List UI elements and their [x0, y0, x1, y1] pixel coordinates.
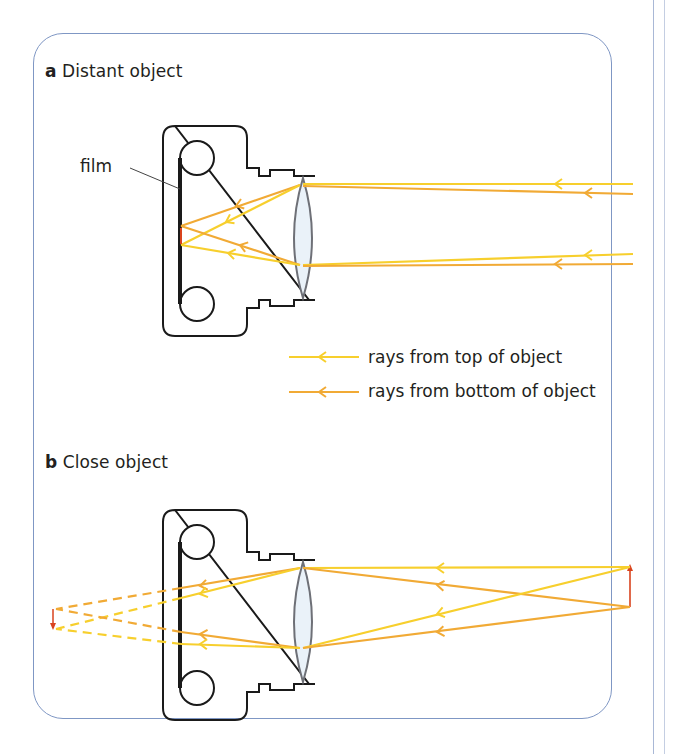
optics-diagram-svg — [0, 0, 673, 754]
diagram-stage: a Distant object film rays from top of o… — [0, 0, 673, 754]
panel-b-camera — [163, 510, 315, 720]
legend — [289, 352, 359, 397]
panel-b-rays — [50, 563, 633, 649]
film-pointer-line — [130, 168, 180, 189]
panel-a-rays — [181, 179, 633, 269]
panel-a-camera — [163, 126, 315, 336]
